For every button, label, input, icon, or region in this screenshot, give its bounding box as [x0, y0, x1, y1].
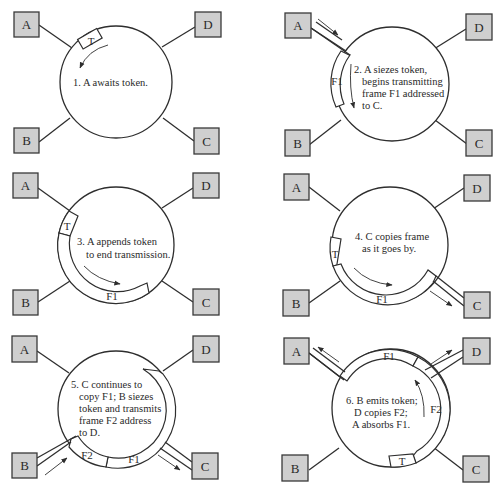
- link-a: [38, 188, 70, 211]
- svg-text:B: B: [291, 461, 300, 476]
- svg-text:C: C: [475, 136, 484, 151]
- svg-text:B: B: [20, 458, 29, 473]
- link-b: [39, 118, 70, 142]
- node-b: B: [285, 130, 310, 156]
- link-d: [162, 27, 195, 47]
- svg-text:frame F1 addressed: frame F1 addressed: [362, 88, 445, 99]
- caption: 6. B emits token; D copies F2; A absorbs…: [346, 395, 418, 430]
- node-c: C: [192, 453, 218, 479]
- link-d: [163, 350, 193, 371]
- svg-text:A: A: [292, 344, 302, 359]
- svg-text:D: D: [201, 178, 210, 193]
- outflow-arrow: [158, 455, 180, 470]
- node-d: D: [466, 14, 492, 40]
- svg-text:A: A: [293, 18, 303, 33]
- panel-6: F1 F2 T 6. B emits token; D copies F2; A…: [282, 338, 490, 482]
- svg-text:D: D: [203, 17, 212, 32]
- svg-text:C: C: [473, 298, 482, 313]
- token-label: T: [88, 35, 95, 47]
- svg-text:2. A siezes token,: 2. A siezes token,: [354, 64, 427, 75]
- panel-4: T F1 4. C copies frame as it goes by. A …: [283, 174, 490, 318]
- svg-text:frame F2 address: frame F2 address: [79, 415, 151, 426]
- node-d: D: [195, 12, 221, 37]
- svg-text:C: C: [202, 134, 211, 149]
- svg-text:A: A: [292, 180, 302, 195]
- svg-text:A: A: [22, 17, 32, 32]
- link-d: [434, 29, 466, 49]
- frame-f1-label: F1: [383, 350, 395, 362]
- node-c: C: [463, 456, 489, 482]
- inflow-arrow: [45, 458, 67, 475]
- frame-f1-label: F1: [128, 453, 140, 465]
- panel-2: F1 2. A siezes token, begins transmittin…: [285, 13, 492, 156]
- node-c: C: [193, 289, 219, 315]
- svg-text:to end transmission.: to end transmission.: [86, 249, 170, 260]
- svg-text:3. A appends token: 3. A appends token: [77, 236, 158, 247]
- node-d: D: [463, 338, 490, 364]
- svg-text:A: A: [20, 342, 30, 357]
- svg-text:copy F1; B siezes: copy F1; B siezes: [79, 391, 153, 402]
- link-b: [309, 448, 339, 470]
- caption-line: 1. A awaits token.: [73, 77, 148, 88]
- token-label: T: [64, 220, 71, 232]
- svg-text:B: B: [292, 296, 301, 311]
- svg-text:begins transmitting: begins transmitting: [362, 76, 444, 87]
- svg-text:D: D: [201, 342, 210, 357]
- link-a: [37, 351, 69, 373]
- svg-text:A absorbs F1.: A absorbs F1.: [352, 419, 410, 430]
- svg-text:D copies F2;: D copies F2;: [354, 407, 408, 418]
- panel-1: T 1. A awaits token. A D B C: [14, 12, 221, 154]
- node-a: A: [14, 12, 39, 37]
- node-a: A: [12, 336, 37, 362]
- node-b: B: [12, 453, 37, 478]
- link-a: [309, 187, 340, 211]
- svg-text:B: B: [293, 136, 302, 151]
- panel-3: T F1 3. A appends token to end transmiss…: [13, 173, 219, 315]
- inflow-arrow: [318, 19, 338, 35]
- link-c: [433, 447, 463, 470]
- link-c: [433, 281, 464, 306]
- link-c: [162, 281, 193, 302]
- node-a: A: [285, 13, 311, 38]
- svg-text:A: A: [21, 178, 31, 193]
- node-c: C: [466, 130, 492, 156]
- svg-text:to C.: to C.: [362, 100, 382, 111]
- svg-text:C: C: [472, 462, 481, 477]
- node-c: C: [194, 128, 219, 154]
- link-d: [433, 188, 464, 209]
- svg-text:as it goes by.: as it goes by.: [362, 243, 416, 254]
- node-c: C: [464, 292, 490, 318]
- frame-f2-label: F2: [430, 403, 442, 415]
- panel-5: F1 F2 5. C continues to copy F1; B sieze…: [12, 336, 219, 479]
- svg-text:token and transmits: token and transmits: [79, 403, 161, 414]
- svg-text:D: D: [472, 181, 481, 196]
- link-b: [309, 120, 341, 145]
- node-d: D: [193, 336, 219, 362]
- link-c: [163, 118, 194, 141]
- svg-text:B: B: [21, 295, 30, 310]
- frame-label: F1: [376, 293, 388, 305]
- link-d: [162, 188, 193, 208]
- node-d: D: [464, 175, 490, 201]
- node-a: A: [284, 338, 309, 364]
- node-b: B: [14, 128, 39, 153]
- node-d: D: [193, 173, 219, 198]
- node-a: A: [284, 174, 309, 200]
- token-label: T: [399, 455, 406, 467]
- link-a: [39, 25, 72, 48]
- svg-text:4. C copies frame: 4. C copies frame: [355, 231, 429, 242]
- link-d: [431, 357, 463, 378]
- frame-label: F1: [331, 75, 343, 87]
- link-b: [309, 281, 340, 303]
- node-b: B: [282, 455, 308, 481]
- node-b: B: [13, 290, 38, 315]
- svg-text:6. B emits token;: 6. B emits token;: [346, 395, 418, 406]
- node-b: B: [283, 290, 309, 316]
- token-label: T: [332, 248, 339, 260]
- svg-text:D: D: [474, 20, 483, 35]
- svg-text:5. C continues to: 5. C continues to: [71, 379, 142, 390]
- frame-f2-label: F2: [81, 449, 93, 461]
- link-b: [38, 281, 70, 302]
- svg-text:D: D: [472, 344, 481, 359]
- link-b: [37, 442, 71, 466]
